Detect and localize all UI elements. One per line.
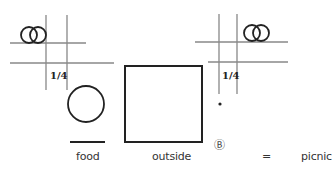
marker-b-symbol: Ⓑ <box>214 136 225 152</box>
outside-label: outside <box>152 150 191 163</box>
equals-sign: = <box>262 150 271 163</box>
food-label: food <box>76 150 100 163</box>
right-grid-sign <box>195 14 288 106</box>
outside-square <box>125 66 202 142</box>
left-fraction: 1/4 <box>50 70 68 81</box>
food-circle <box>68 86 104 122</box>
right-dot <box>218 102 221 105</box>
right-fraction: 1/4 <box>222 70 240 81</box>
picnic-label: picnic <box>301 150 332 163</box>
left-rings-icon <box>21 27 46 43</box>
right-rings-icon <box>244 25 269 41</box>
food-glyph <box>68 86 105 142</box>
